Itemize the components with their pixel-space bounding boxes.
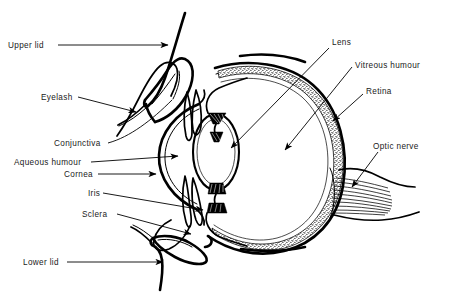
label-upper-lid: Upper lid [8, 41, 44, 50]
label-retina: Retina [366, 87, 392, 96]
leader-sclera [117, 214, 191, 234]
label-lens: Lens [332, 38, 351, 47]
label-cornea: Cornea [64, 170, 93, 179]
label-optic-nerve: Optic nerve [373, 142, 419, 151]
label-aqueous-humour: Aqueous humour [14, 158, 81, 167]
upper-zonule-curve [206, 78, 247, 113]
label-eyelash: Eyelash [41, 93, 73, 102]
lower-eyelid [151, 236, 207, 290]
label-sclera: Sclera [82, 210, 107, 219]
leader-eyelash [78, 97, 136, 112]
label-vitreous-humour: Vitreous humour [355, 61, 420, 70]
diagram-canvas: Upper lid Eyelash Conjunctiva Aqueous hu… [0, 0, 451, 302]
eye-anatomy-diagram: Upper lid Eyelash Conjunctiva Aqueous hu… [0, 0, 451, 302]
eyelash-upper [118, 104, 155, 126]
sclera-top-edge [240, 55, 305, 62]
leader-retina [333, 94, 363, 121]
label-conjunctiva: Conjunctiva [54, 139, 101, 148]
label-lower-lid: Lower lid [23, 258, 59, 267]
label-iris: Iris [88, 189, 100, 198]
